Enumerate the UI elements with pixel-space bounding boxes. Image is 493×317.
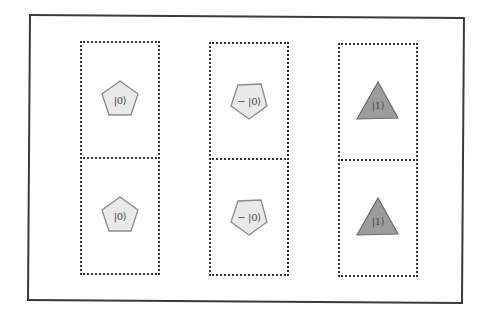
cell-1-top: |0⟩ bbox=[80, 41, 160, 159]
state-label: |0⟩ bbox=[98, 211, 142, 222]
state-label: − |0⟩ bbox=[227, 96, 271, 107]
cell-3-bottom: |1⟩ bbox=[338, 159, 418, 277]
state-label: − |0⟩ bbox=[227, 212, 271, 223]
pentagon-shape: − |0⟩ bbox=[227, 79, 271, 123]
cell-3-top: |1⟩ bbox=[338, 43, 418, 161]
cell-2-bottom: − |0⟩ bbox=[209, 158, 289, 276]
state-label: |1⟩ bbox=[356, 216, 400, 227]
state-label: |0⟩ bbox=[98, 95, 142, 106]
pentagon-shape: − |0⟩ bbox=[227, 195, 271, 239]
cell-1-bottom: |0⟩ bbox=[80, 157, 160, 275]
pentagon-shape: |0⟩ bbox=[98, 78, 142, 122]
pentagon-shape: |0⟩ bbox=[98, 194, 142, 238]
triangle-shape: |1⟩ bbox=[356, 80, 400, 124]
cell-2-top: − |0⟩ bbox=[209, 42, 289, 160]
state-label: |1⟩ bbox=[356, 100, 400, 111]
triangle-shape: |1⟩ bbox=[356, 196, 400, 240]
